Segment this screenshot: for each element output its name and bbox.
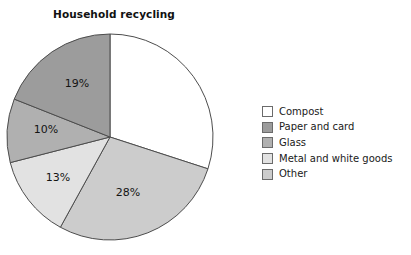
legend-item-label: Metal and white goods	[279, 154, 392, 164]
pie-slice-label: 19%	[65, 77, 89, 90]
legend-item-label: Glass	[279, 138, 306, 148]
legend-item: Other	[262, 166, 410, 182]
chart-title: Household recycling	[0, 8, 228, 20]
pie-slice-label: 28%	[116, 186, 140, 199]
legend-item: Metal and white goods	[262, 151, 410, 167]
legend-item-label: Other	[279, 169, 307, 179]
legend-item-label: Compost	[279, 107, 323, 117]
pie-plot-area: 28%13%10%19%	[0, 26, 228, 251]
legend-swatch-icon	[262, 122, 273, 133]
pie-slice-group	[7, 34, 213, 240]
chart-legend: CompostPaper and cardGlassMetal and whit…	[262, 104, 410, 182]
pie-slice-label: 13%	[46, 171, 70, 184]
legend-swatch-icon	[262, 106, 273, 117]
legend-swatch-icon	[262, 137, 273, 148]
legend-swatch-icon	[262, 169, 273, 180]
legend-item: Glass	[262, 135, 410, 151]
legend-item: Paper and card	[262, 120, 410, 136]
legend-item: Compost	[262, 104, 410, 120]
pie-chart: Household recycling 28%13%10%19% Compost…	[0, 0, 411, 255]
legend-swatch-icon	[262, 153, 273, 164]
pie-slice-label: 10%	[34, 123, 58, 136]
pie-svg: 28%13%10%19%	[0, 26, 228, 251]
legend-item-label: Paper and card	[279, 122, 354, 132]
